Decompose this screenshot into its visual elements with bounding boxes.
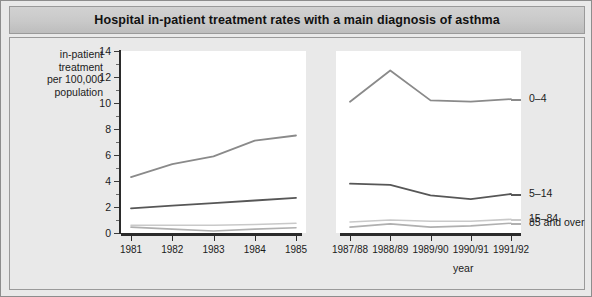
series-leader-line	[511, 223, 521, 225]
series-line	[350, 71, 511, 102]
series-line	[131, 136, 296, 178]
y-tick-mark	[114, 155, 119, 156]
series-lines	[121, 51, 521, 233]
x-axis-line-left-panel	[121, 233, 302, 236]
x-tick-label: 1983	[202, 244, 224, 255]
x-tick-label: 1985	[285, 244, 307, 255]
x-tick-mark	[255, 236, 256, 241]
series-line	[131, 227, 296, 231]
x-axis-label: year	[453, 262, 473, 274]
series-label-0-4: 0–4	[529, 92, 547, 104]
x-tick-mark	[390, 236, 391, 241]
y-tick-label: 14	[89, 45, 111, 57]
series-leader-line	[511, 194, 521, 196]
y-tick-mark	[114, 103, 119, 104]
x-tick-mark	[350, 236, 351, 241]
series-line	[350, 219, 511, 222]
y-tick-mark	[114, 181, 119, 182]
y-tick-label: 2	[89, 201, 111, 213]
x-tick-mark	[131, 236, 132, 241]
series-label-5-14: 5–14	[529, 187, 552, 199]
y-tick-minor	[116, 90, 119, 91]
y-tick-label: 10	[89, 97, 111, 109]
y-tick-minor	[116, 220, 119, 221]
y-tick-minor	[116, 64, 119, 65]
series-leader-line	[511, 219, 521, 221]
x-tick-mark	[511, 236, 512, 241]
x-tick-mark	[172, 236, 173, 241]
y-tick-minor	[116, 142, 119, 143]
x-tick-label: 1989/90	[412, 244, 448, 255]
x-tick-mark	[431, 236, 432, 241]
x-tick-mark	[471, 236, 472, 241]
y-tick-minor	[116, 116, 119, 117]
y-tick-minor	[116, 194, 119, 195]
y-tick-mark	[114, 129, 119, 130]
x-tick-label: 1991/92	[493, 244, 529, 255]
y-tick-mark	[114, 207, 119, 208]
series-label-85-and-over: 85 and over	[529, 216, 584, 228]
series-leader-line	[511, 99, 521, 101]
y-tick-label: 8	[89, 123, 111, 135]
x-tick-mark	[214, 236, 215, 241]
y-tick-label: 4	[89, 175, 111, 187]
x-tick-label: 1982	[161, 244, 183, 255]
x-tick-label: 1987/88	[332, 244, 368, 255]
y-tick-label: 0	[89, 227, 111, 239]
x-tick-label: 1990/91	[453, 244, 489, 255]
x-tick-label: 1981	[120, 244, 142, 255]
series-line	[350, 223, 511, 227]
y-axis-line	[119, 50, 121, 234]
x-tick-label: 1988/89	[372, 244, 408, 255]
x-tick-label: 1984	[244, 244, 266, 255]
series-line	[350, 184, 511, 200]
chart-title-bar: Hospital in-patient treatment rates with…	[9, 6, 585, 34]
plot-area	[121, 51, 521, 233]
y-tick-label: 12	[89, 71, 111, 83]
y-tick-minor	[116, 168, 119, 169]
page-title: Hospital in-patient treatment rates with…	[94, 13, 499, 27]
y-tick-mark	[114, 233, 119, 234]
series-line	[131, 198, 296, 208]
y-tick-mark	[114, 51, 119, 52]
x-tick-mark	[296, 236, 297, 241]
series-line	[131, 223, 296, 225]
figure-container: Hospital in-patient treatment rates with…	[0, 0, 592, 297]
y-tick-mark	[114, 77, 119, 78]
y-tick-label: 6	[89, 149, 111, 161]
